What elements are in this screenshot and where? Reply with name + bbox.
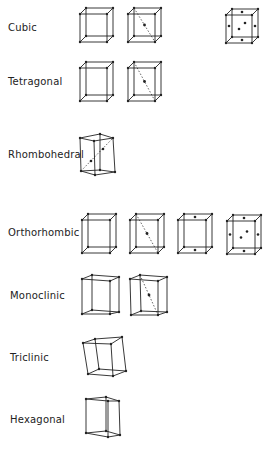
- lattice-diagram: [0, 0, 268, 449]
